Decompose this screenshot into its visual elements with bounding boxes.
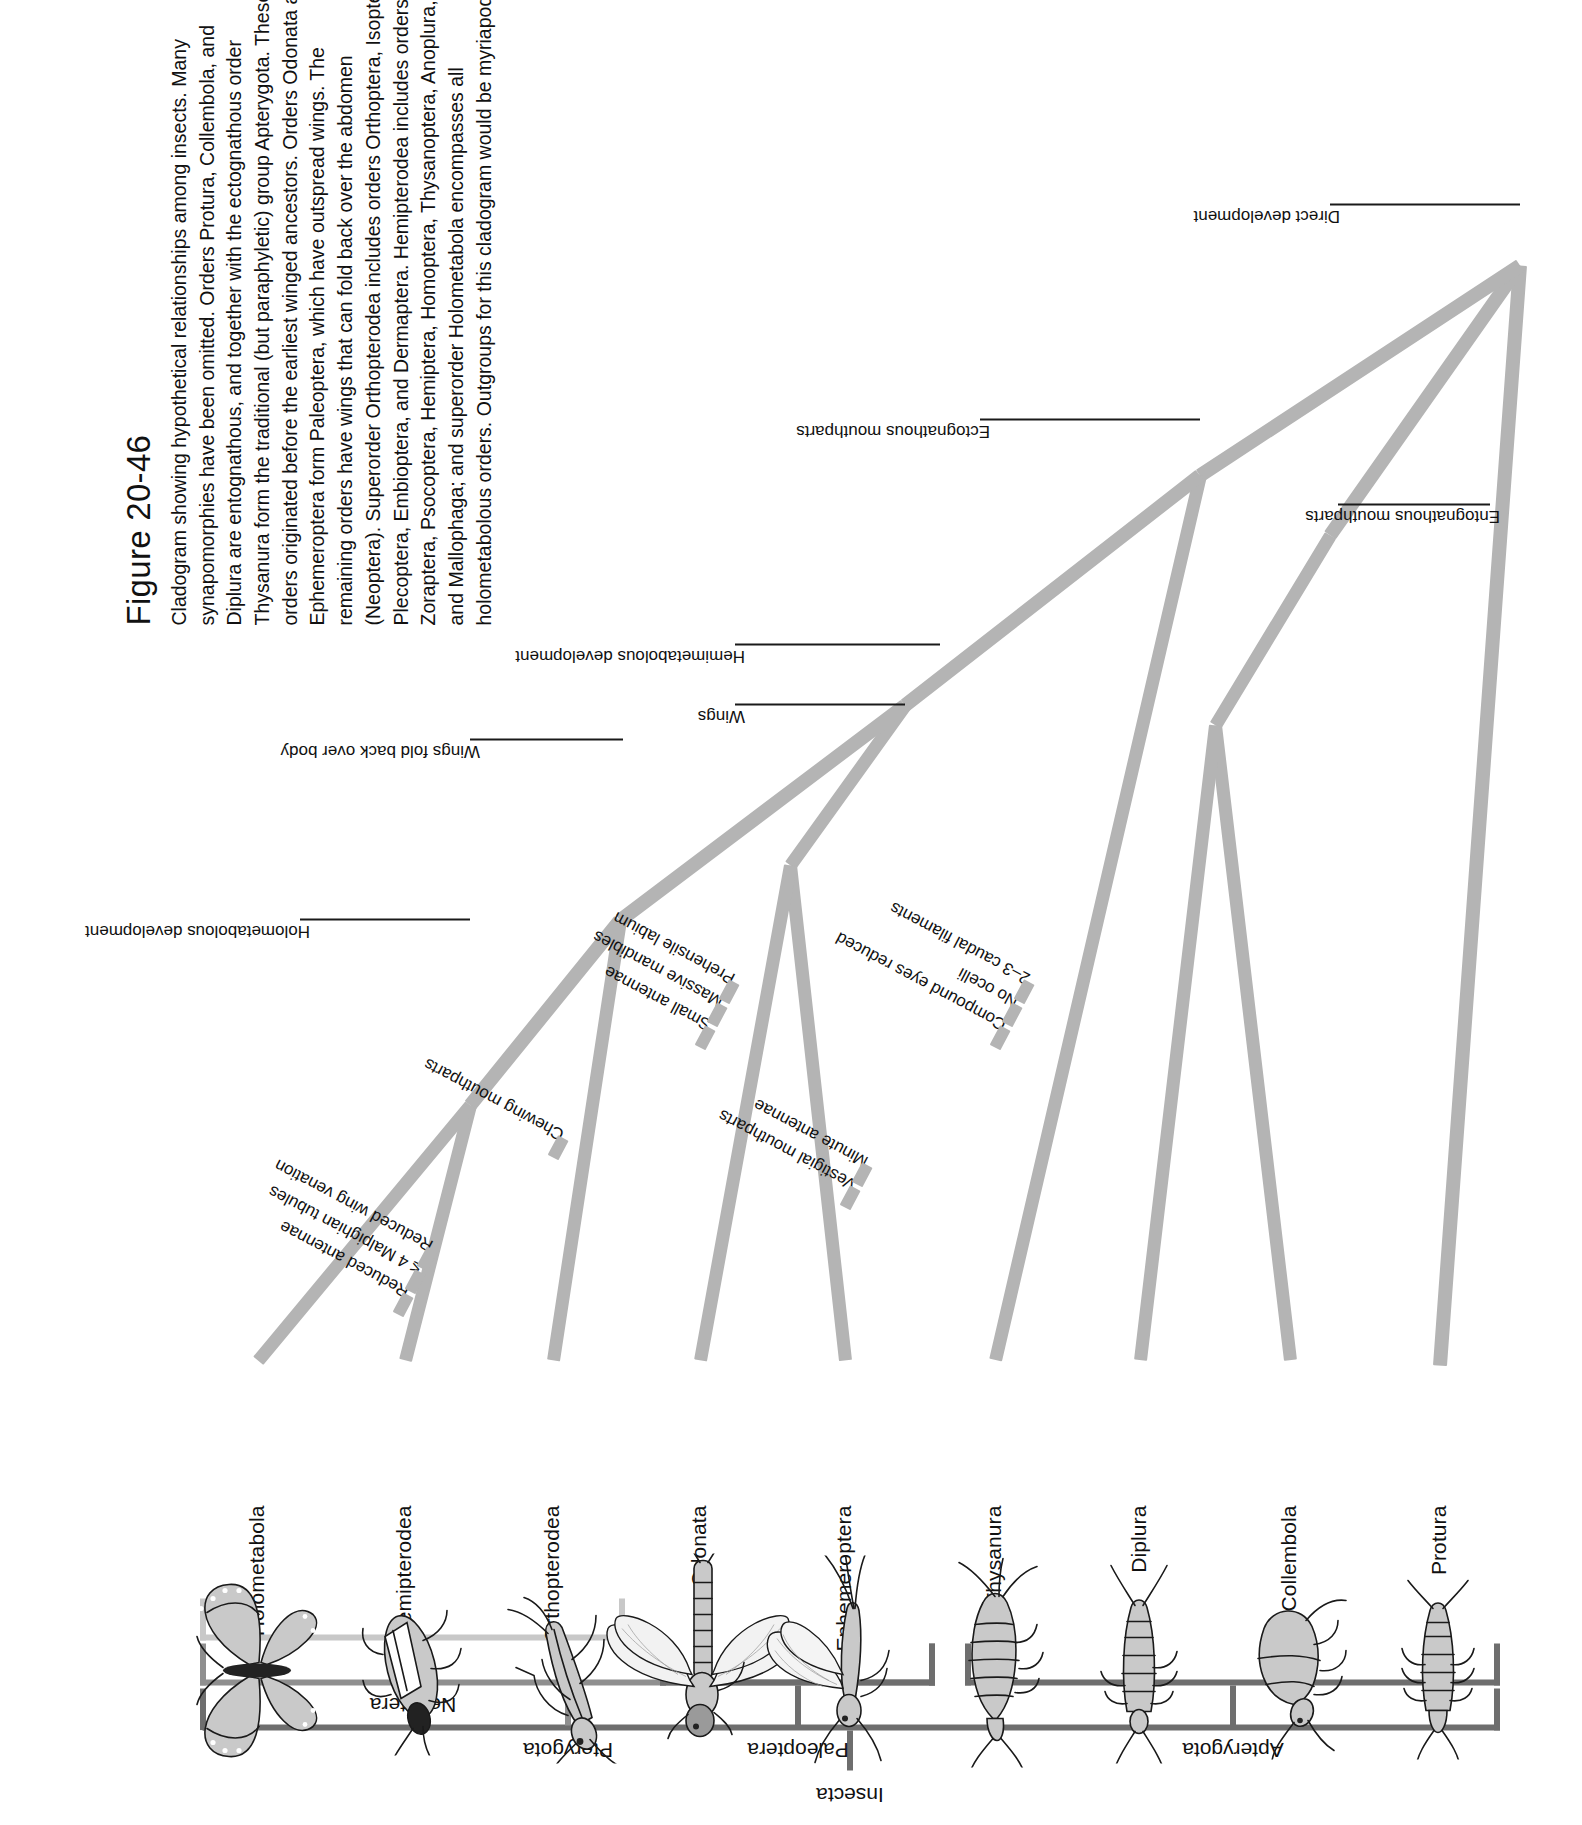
callout-leader-line	[1338, 503, 1490, 505]
callout-leader-line	[300, 918, 470, 920]
branch-entognatha	[1209, 532, 1335, 729]
taxon-label-diplura: Diplura	[1127, 1505, 1151, 1572]
rotated-figure-canvas: InsectaPterygotaNeopteraPaleopteraAptery…	[0, 0, 1582, 1825]
protura-drawing	[1386, 1569, 1491, 1759]
node-callout-wings: Wings	[698, 705, 745, 725]
bracket-arm-end	[1494, 1643, 1500, 1685]
branch-protura	[1433, 264, 1527, 1365]
branch-neoptera-stem	[616, 699, 909, 925]
clade-bracket-label-insecta: Insecta	[816, 1782, 884, 1806]
node-callout-wings-fold-back: Wings fold back over body	[281, 740, 480, 760]
branch-diplura	[1134, 724, 1222, 1361]
callout-leader-line	[735, 703, 905, 705]
branch-collembola	[1209, 724, 1297, 1361]
node-callout-ectognathous-mouthparts: Ectognathous mouthparts	[796, 420, 990, 440]
butterfly-drawing	[180, 1575, 330, 1765]
figure-page: InsectaPterygotaNeopteraPaleopteraAptery…	[0, 0, 1582, 1825]
callout-leader-line	[735, 643, 940, 645]
collembola-drawing	[1218, 1569, 1358, 1759]
node-callout-direct-development: Direct development	[1194, 205, 1340, 225]
figure-caption-text: Cladogram showing hypothetical relations…	[166, 0, 498, 625]
node-callout-hemimetabolous-development: Hemimetabolous development	[515, 645, 745, 665]
bracket-arm-end	[1494, 1688, 1500, 1730]
taxon-label-protura: Protura	[1427, 1505, 1451, 1575]
callout-leader-line	[980, 418, 1200, 420]
truebug-drawing	[345, 1585, 465, 1755]
branch-root-to-ectognatha	[1196, 259, 1524, 481]
mayfly-drawing	[753, 1555, 933, 1785]
thysanura-drawing	[923, 1557, 1063, 1767]
diplura-drawing	[1084, 1563, 1194, 1763]
figure-caption: Figure 20-46 Cladogram showing hypotheti…	[120, 0, 498, 625]
callout-leader-line	[470, 738, 623, 740]
callout-leader-line	[1330, 203, 1520, 205]
figure-number: Figure 20-46	[120, 0, 158, 625]
node-callout-entognathous-mouthparts: Entognathous mouthparts	[1305, 505, 1500, 525]
node-callout-holometabolous-development: Holometabolous development	[85, 920, 310, 940]
